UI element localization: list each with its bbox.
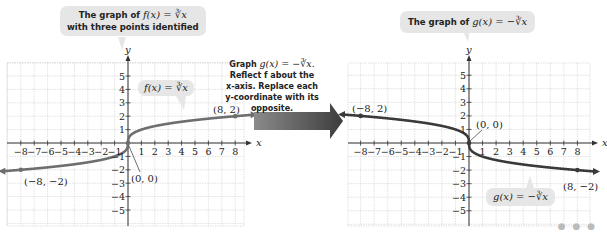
- x-axis-label: x: [256, 137, 262, 148]
- svg-text:−5: −5: [111, 205, 125, 216]
- right-point-label-origin: (0, 0): [476, 119, 503, 130]
- right-graph: [338, 55, 600, 226]
- right-curve-label: g(x) = −∛x: [486, 188, 555, 206]
- x-axis-label: x: [602, 137, 607, 148]
- svg-text:1: 1: [138, 146, 144, 157]
- svg-text:−3: −3: [81, 146, 95, 157]
- svg-text:1: 1: [480, 146, 486, 157]
- data-point: [467, 141, 472, 146]
- left-point-label-8: (8, 2): [213, 104, 240, 115]
- left-graph-callout: The graph of f(x) = ∛x with three points…: [60, 6, 206, 36]
- svg-text:3: 3: [165, 146, 171, 157]
- svg-text:6: 6: [547, 146, 553, 157]
- svg-text:7: 7: [219, 146, 225, 157]
- svg-text:−4: −4: [111, 191, 125, 202]
- svg-text:−3: −3: [421, 146, 435, 157]
- svg-text:−4: −4: [452, 192, 466, 203]
- svg-text:4: 4: [119, 84, 125, 95]
- svg-text:8: 8: [232, 146, 238, 157]
- svg-text:4: 4: [460, 83, 466, 94]
- svg-text:−4: −4: [408, 146, 422, 157]
- svg-text:5: 5: [534, 146, 540, 157]
- svg-text:4: 4: [179, 146, 185, 157]
- right-graph-callout: The graph of g(x) = −∛x: [400, 11, 535, 33]
- svg-text:−3: −3: [452, 178, 466, 189]
- svg-text:2: 2: [493, 146, 499, 157]
- svg-text:3: 3: [507, 146, 513, 157]
- data-point: [358, 114, 363, 119]
- y-axis-label: y: [124, 44, 131, 55]
- data-point: [126, 141, 131, 146]
- svg-text:8: 8: [574, 146, 580, 157]
- left-point-label-neg8: (−8, −2): [24, 176, 68, 187]
- y-axis-label: y: [465, 44, 472, 55]
- svg-text:−3: −3: [111, 178, 125, 189]
- data-point: [575, 168, 580, 173]
- svg-text:−1: −1: [452, 151, 466, 162]
- svg-text:−2: −2: [94, 146, 108, 157]
- svg-text:2: 2: [152, 146, 158, 157]
- svg-text:−7: −7: [27, 146, 41, 157]
- right-point-label-8: (8, −2): [563, 181, 598, 192]
- svg-text:3: 3: [460, 97, 466, 108]
- svg-text:−2: −2: [452, 165, 466, 176]
- svg-text:1: 1: [119, 124, 125, 135]
- svg-text:−5: −5: [54, 146, 68, 157]
- svg-text:−6: −6: [41, 146, 55, 157]
- svg-text:2: 2: [119, 111, 125, 122]
- svg-text:−2: −2: [435, 146, 449, 157]
- left-point-label-origin: (0, 0): [131, 173, 158, 184]
- svg-text:6: 6: [205, 146, 211, 157]
- more-dots: ● ● ●: [558, 221, 597, 231]
- svg-text:7: 7: [561, 146, 567, 157]
- right-point-label-neg8: (−8, 2): [352, 103, 387, 114]
- svg-text:1: 1: [460, 124, 466, 135]
- svg-text:5: 5: [192, 146, 198, 157]
- left-curve-label: f(x) = ∛x: [138, 80, 194, 96]
- svg-text:5: 5: [119, 71, 125, 82]
- svg-text:4: 4: [520, 146, 526, 157]
- svg-text:−5: −5: [452, 205, 466, 216]
- svg-text:−5: −5: [394, 146, 408, 157]
- svg-text:5: 5: [460, 70, 466, 81]
- svg-text:−7: −7: [367, 146, 381, 157]
- svg-text:−8: −8: [354, 146, 368, 157]
- svg-text:−8: −8: [14, 146, 28, 157]
- svg-text:−4: −4: [67, 146, 81, 157]
- svg-text:−6: −6: [381, 146, 395, 157]
- data-point: [19, 168, 24, 173]
- svg-text:2: 2: [460, 110, 466, 121]
- svg-text:−1: −1: [111, 151, 125, 162]
- svg-text:−2: −2: [111, 164, 125, 175]
- svg-text:3: 3: [119, 97, 125, 108]
